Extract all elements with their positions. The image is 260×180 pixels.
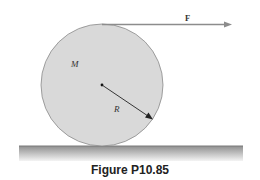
- figure-caption: Figure P10.85: [0, 163, 260, 177]
- force-label: F: [185, 13, 190, 23]
- ground-surface: [19, 146, 243, 161]
- figure-canvas: F M R: [0, 0, 260, 180]
- radius-label: R: [113, 104, 120, 114]
- mass-label: M: [70, 59, 79, 69]
- force-arrow-icon: [102, 22, 232, 28]
